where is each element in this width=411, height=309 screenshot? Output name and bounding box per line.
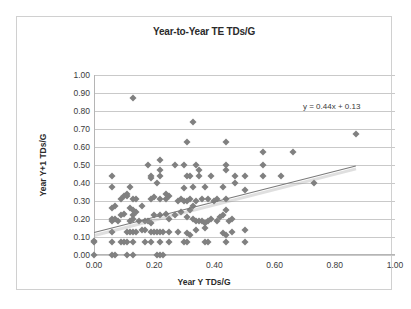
y-tick-label: 0.70 bbox=[50, 124, 90, 134]
y-axis-label: Year Y+1 TDs/G bbox=[38, 134, 48, 197]
y-tick-label: 0.00 bbox=[50, 250, 90, 260]
y-tick-label: 0.30 bbox=[50, 196, 90, 206]
x-tick-label: 0.60 bbox=[253, 260, 297, 270]
chart-frame: Year-to-Year TE TDs/G Year Y+1 TDs/G Yea… bbox=[16, 16, 392, 290]
y-tick-label: 0.20 bbox=[50, 214, 90, 224]
y-tick-label: 0.80 bbox=[50, 106, 90, 116]
y-tick-label: 1.00 bbox=[50, 70, 90, 80]
y-tick-label: 0.40 bbox=[50, 178, 90, 188]
y-tick-label: 0.90 bbox=[50, 88, 90, 98]
y-tick-label: 0.60 bbox=[50, 142, 90, 152]
y-tick-label: 0.50 bbox=[50, 160, 90, 170]
plot-area: 0.000.100.200.300.400.500.600.700.800.90… bbox=[94, 75, 395, 255]
x-tick-label: 0.00 bbox=[72, 260, 116, 270]
x-tick-label: 0.20 bbox=[132, 260, 176, 270]
y-tick-label: 0.10 bbox=[50, 232, 90, 242]
x-axis-label: Year Y TDs/G bbox=[17, 277, 391, 287]
gridline bbox=[94, 255, 395, 256]
x-tick-label: 0.80 bbox=[313, 260, 357, 270]
x-tick-label: 1.00 bbox=[373, 260, 411, 270]
x-tick-label: 0.40 bbox=[192, 260, 236, 270]
chart-title: Year-to-Year TE TDs/G bbox=[17, 26, 391, 37]
